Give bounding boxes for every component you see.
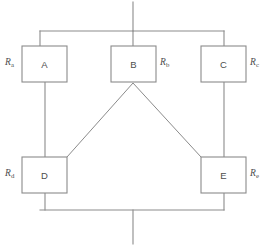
- block-a-label: A: [41, 59, 48, 70]
- resistor-label-ra: Ra: [5, 58, 14, 68]
- resistor-label-re: Re: [250, 169, 259, 179]
- resistor-symbol-rc: R: [250, 57, 256, 67]
- wire-block-b-to-block-e: [133, 83, 201, 157]
- circuit-diagram: A B C D E Ra Rb Rc Rd Re: [0, 0, 261, 248]
- block-b-label: B: [130, 59, 136, 70]
- diagram-canvas: A B C D E: [0, 0, 261, 248]
- resistor-symbol-rd: R: [5, 168, 11, 178]
- resistor-label-rc: Rc: [250, 58, 259, 68]
- block-e-label: E: [220, 170, 226, 181]
- resistor-subscript-rb: b: [166, 61, 169, 68]
- resistor-subscript-rc: c: [256, 61, 259, 68]
- wire-block-b-to-block-d: [67, 83, 133, 157]
- resistor-symbol-ra: R: [5, 57, 11, 67]
- resistor-subscript-ra: a: [11, 61, 14, 68]
- resistor-subscript-re: e: [256, 172, 259, 179]
- block-c-label: C: [220, 59, 227, 70]
- resistor-label-rd: Rd: [5, 169, 14, 179]
- block-d-label: D: [41, 170, 48, 181]
- resistor-symbol-rb: R: [160, 57, 166, 67]
- resistor-subscript-rd: d: [11, 172, 14, 179]
- resistor-label-rb: Rb: [160, 58, 169, 68]
- resistor-symbol-re: R: [250, 168, 256, 178]
